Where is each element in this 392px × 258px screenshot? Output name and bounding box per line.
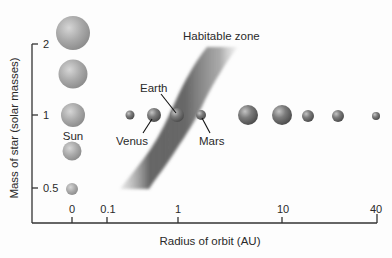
y-axis-title: Mass of star (solar masses) (8, 57, 20, 198)
planet-mars (196, 110, 206, 120)
venus-label: Venus (116, 135, 148, 147)
venus-leader-line (143, 119, 152, 133)
planet-saturn (272, 105, 292, 125)
star-sun (61, 103, 85, 127)
sun-label: Sun (63, 130, 83, 142)
planet-jupiter (238, 105, 258, 125)
habitable-zone-label: Habitable zone (183, 30, 260, 42)
planet-neptune (332, 110, 344, 122)
mars-leader-line (202, 118, 210, 133)
mars-label: Mars (199, 135, 225, 147)
planets (126, 105, 381, 125)
x-tick-0: 0 (69, 203, 75, 215)
planet-earth (170, 108, 184, 122)
planet-pluto (372, 112, 380, 120)
star-2-2-solar-mass (56, 16, 90, 50)
earth-leader-line (161, 94, 176, 113)
y-tick-2: 2 (43, 38, 49, 50)
planet-uranus (302, 110, 314, 122)
habitable-zone-diagram: 2 1 0.5 Mass of star (solar masses) 0 0.… (0, 0, 392, 258)
x-axis: 0 0.1 1 10 40 Radius of orbit (AU) (32, 203, 382, 247)
star-0-5-solar-mass (66, 183, 78, 195)
planet-venus (147, 108, 161, 122)
planet-mercury (126, 111, 135, 120)
x-tick-10: 10 (277, 203, 289, 215)
star-1-5-solar-mass (59, 60, 88, 89)
x-tick-1: 1 (175, 203, 181, 215)
star-0-75-solar-mass (63, 142, 82, 161)
x-axis-title: Radius of orbit (AU) (160, 235, 261, 247)
earth-label: Earth (140, 82, 168, 94)
x-tick-0-1: 0.1 (100, 203, 115, 215)
y-tick-0-5: 0.5 (43, 182, 58, 194)
stars: Sun (56, 16, 90, 195)
x-tick-40: 40 (370, 203, 382, 215)
y-axis: 2 1 0.5 Mass of star (solar masses) (8, 38, 58, 223)
y-tick-1: 1 (43, 109, 49, 121)
